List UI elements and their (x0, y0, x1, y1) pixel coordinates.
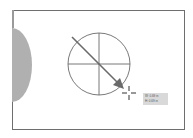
dimension-tooltip: W: 0.69 in H: 0.69 in (143, 93, 168, 105)
tooltip-height: H: 0.69 in (145, 99, 166, 104)
artboard-frame (13, 11, 185, 130)
artboard-canvas[interactable] (0, 0, 193, 138)
